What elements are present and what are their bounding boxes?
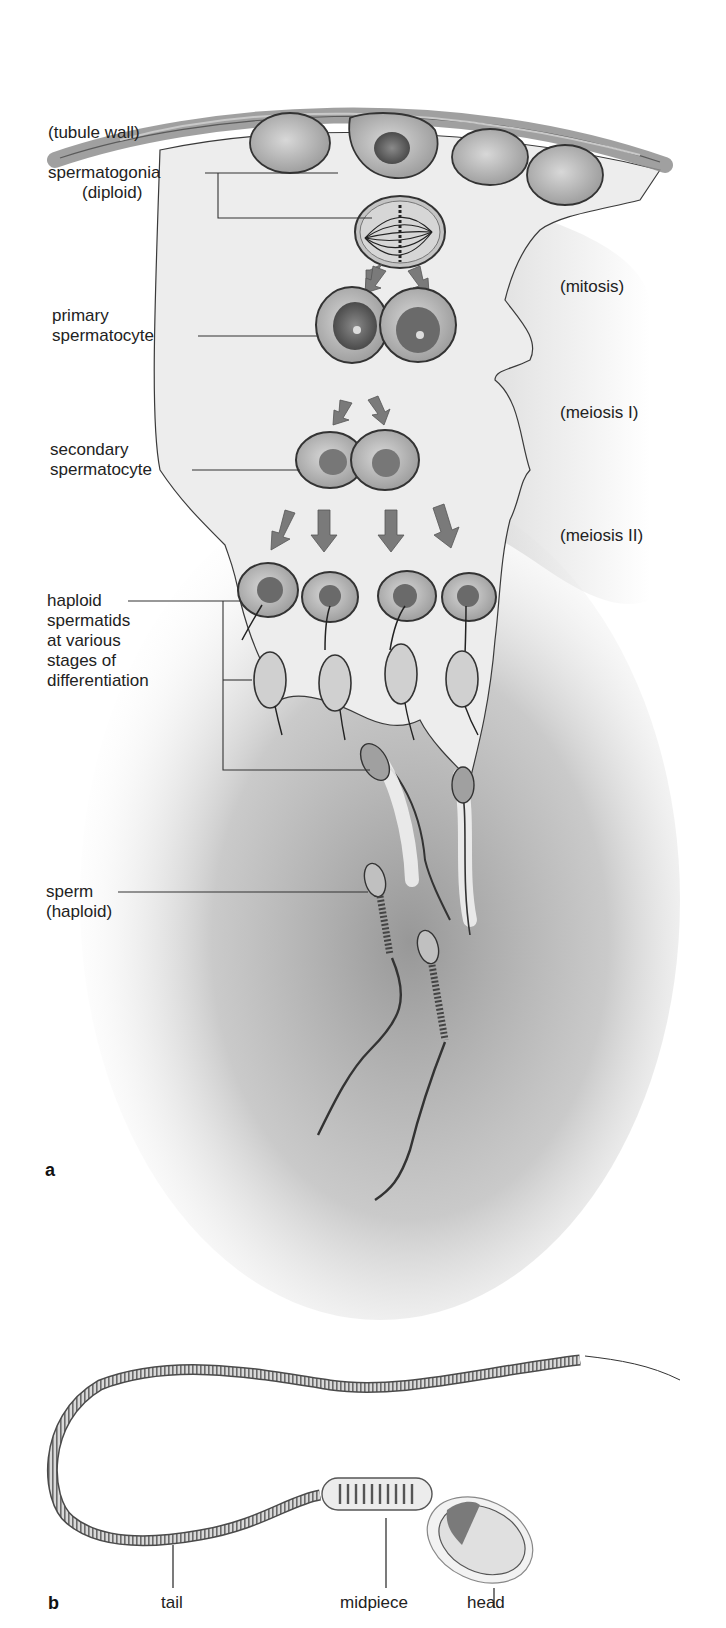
- label-spermatogonia: spermatogonia: [48, 163, 160, 182]
- illustration: [0, 0, 726, 1628]
- label-stages-of: stages of: [47, 651, 116, 670]
- mitotic-spermatogonium: [355, 196, 445, 268]
- label-haploid: haploid: [47, 591, 102, 610]
- stage-meiosis-2: (meiosis II): [560, 526, 643, 545]
- stage-mitosis: (mitosis): [560, 277, 624, 296]
- mature-sperm-diagram: [52, 1356, 680, 1608]
- label-sperm-haploid: (haploid): [46, 902, 112, 921]
- label-primary: primary: [52, 306, 109, 325]
- label-tail: tail: [161, 1593, 183, 1612]
- label-midpiece: midpiece: [340, 1593, 408, 1612]
- label-head: head: [467, 1593, 505, 1612]
- panel-letter-a: a: [45, 1160, 55, 1181]
- label-spermatogonia-ploidy: (diploid): [82, 183, 142, 202]
- label-tubule-wall: (tubule wall): [48, 123, 140, 142]
- label-spermatids: spermatids: [47, 611, 130, 630]
- label-primary-spermatocyte: spermatocyte: [52, 326, 154, 345]
- label-differentiation: differentiation: [47, 671, 149, 690]
- label-sperm: sperm: [46, 882, 93, 901]
- label-secondary-spermatocyte: spermatocyte: [50, 460, 152, 479]
- label-secondary: secondary: [50, 440, 128, 459]
- panel-letter-b: b: [48, 1593, 59, 1614]
- spermatogenesis-figure: (tubule wall) spermatogonia (diploid) pr…: [0, 0, 726, 1628]
- label-at-various: at various: [47, 631, 121, 650]
- stage-meiosis-1: (meiosis I): [560, 403, 638, 422]
